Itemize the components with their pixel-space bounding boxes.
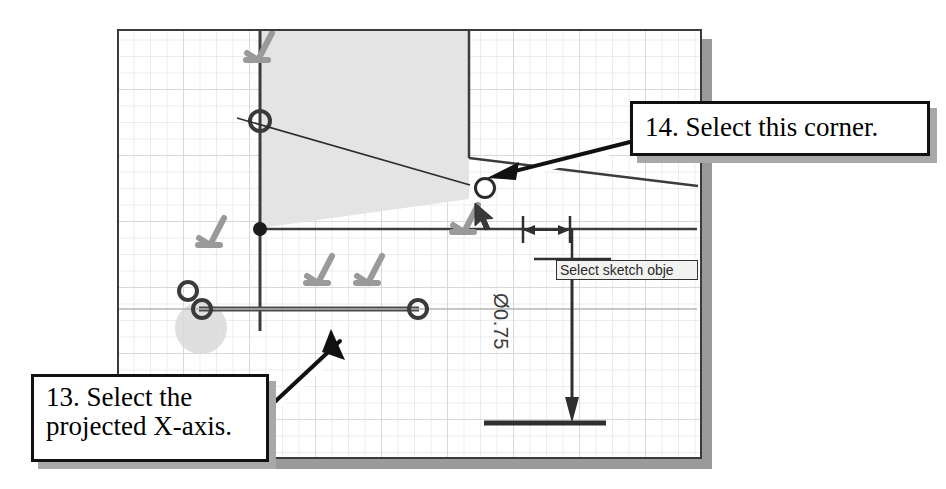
perpendicular-constraint-glyph-2[interactable]	[193, 212, 229, 256]
callout-step-14[interactable]: 14. Select this corner.	[630, 101, 930, 156]
dim-arrow-right	[558, 225, 570, 235]
diameter-dimension-label[interactable]: Ø0.75	[489, 293, 512, 350]
slanted-top-edge[interactable]	[469, 158, 698, 186]
perpendicular-constraint-glyph-3[interactable]	[301, 250, 337, 294]
callout-step-13[interactable]: 13. Select the projected X-axis.	[31, 374, 269, 462]
sketch-select-cursor	[474, 203, 496, 233]
diameter-dim-arrow-down	[565, 397, 579, 423]
perpendicular-constraint-glyph-1[interactable]	[241, 29, 277, 71]
filled-endpoint-dot[interactable]	[253, 222, 267, 236]
origin-point-circle[interactable]	[179, 282, 197, 300]
callout-13-line-1: 13. Select the	[46, 383, 254, 412]
dim-arrow-left	[523, 225, 535, 235]
sketch-tooltip: Select sketch obje	[556, 260, 698, 280]
callout-13-line-2: projected X-axis.	[46, 412, 254, 441]
callout-14-text: 14. Select this corner.	[645, 113, 878, 142]
selected-corner-circle[interactable]	[476, 179, 495, 198]
perpendicular-constraint-glyph-4[interactable]	[351, 250, 387, 294]
